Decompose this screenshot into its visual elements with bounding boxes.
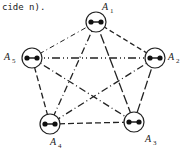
svg-text:3: 3 <box>153 139 157 147</box>
label-a4: A <box>49 136 57 147</box>
edge-a1-a5 <box>32 22 96 58</box>
node-a1: A 1 <box>86 1 114 32</box>
svg-text:2: 2 <box>176 57 180 65</box>
label-a2: A <box>167 51 175 62</box>
node-a3: A 3 <box>124 112 157 147</box>
svg-text:1: 1 <box>110 7 114 15</box>
node-a2: A 2 <box>145 48 180 68</box>
node-a4: A 4 <box>40 114 62 150</box>
graph-diagram: A 1 A 2 A 3 A 4 A 5 <box>0 0 186 151</box>
label-a1: A <box>101 1 109 12</box>
svg-text:4: 4 <box>58 142 62 150</box>
edges <box>32 22 155 124</box>
svg-text:5: 5 <box>12 57 16 65</box>
label-a3: A <box>144 133 152 144</box>
edge-a1-a3 <box>96 22 134 122</box>
node-a5: A 5 <box>3 48 42 68</box>
edge-a4-a3 <box>50 122 134 124</box>
label-a5: A <box>3 51 11 62</box>
